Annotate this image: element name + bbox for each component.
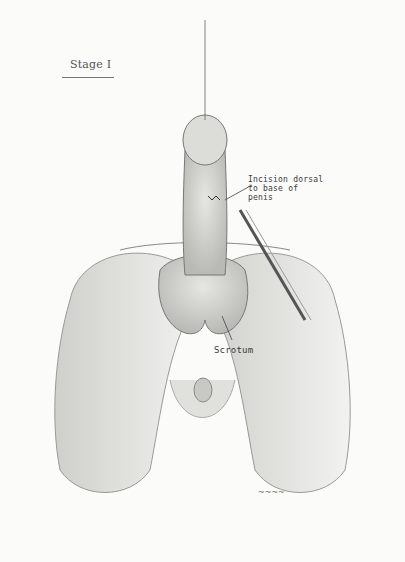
incision-label: Incision dorsal to base of penis: [248, 175, 328, 202]
surgical-illustration: [0, 0, 405, 562]
illustration-page: Stage I Incision dorsal to base of penis…: [0, 0, 405, 562]
scrotum-label: Scrotum: [214, 346, 253, 355]
stage-title: Stage I: [70, 60, 111, 69]
artist-signature: ~~~~: [258, 488, 285, 497]
title-underline: [62, 77, 114, 78]
